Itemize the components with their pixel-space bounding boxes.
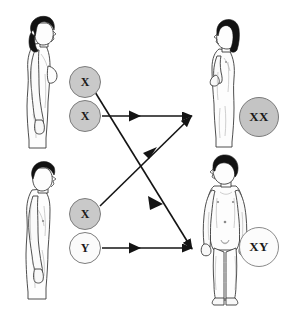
gamete-sperm-x[interactable]: X: [69, 198, 101, 230]
gamete-label: X: [81, 109, 90, 124]
gamete-sperm-y[interactable]: Y: [69, 232, 101, 264]
karyotype-label: XY: [249, 239, 268, 255]
arrow-sperm-y-to-son: [102, 243, 192, 254]
gamete-label: X: [81, 75, 90, 90]
inheritance-diagram: X X X Y XX XY: [0, 0, 291, 315]
father-figure: [8, 158, 70, 304]
gamete-egg-x-1[interactable]: X: [69, 66, 101, 98]
arrow-sperm-x-to-daughter: [100, 117, 191, 206]
gamete-egg-x-2[interactable]: X: [69, 100, 101, 132]
gamete-label: Y: [81, 241, 90, 256]
karyotype-xy[interactable]: XY: [239, 227, 279, 267]
karyotype-label: XX: [249, 109, 268, 125]
gamete-label: X: [81, 207, 90, 222]
arrow-egg-x1-to-son: [95, 92, 192, 249]
mother-figure: [8, 14, 70, 154]
arrow-egg-x2-to-daughter: [102, 111, 192, 122]
karyotype-xx[interactable]: XX: [239, 97, 279, 137]
